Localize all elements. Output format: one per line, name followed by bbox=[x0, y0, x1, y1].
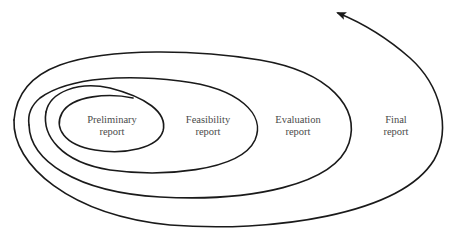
stage-label-evaluation: Evaluation report bbox=[275, 114, 321, 138]
stage-label-line2: report bbox=[186, 126, 230, 138]
stage-label-line1: Final bbox=[383, 114, 408, 126]
stage-label-line1: Feasibility bbox=[186, 114, 230, 126]
stage-label-line2: report bbox=[87, 126, 137, 138]
stage-label-line2: report bbox=[383, 126, 408, 138]
stage-label-line2: report bbox=[275, 126, 321, 138]
stage-label-final: Final report bbox=[383, 114, 408, 138]
stage-label-line1: Evaluation bbox=[275, 114, 321, 126]
stage-label-preliminary: Preliminary report bbox=[87, 114, 137, 138]
stage-label-feasibility: Feasibility report bbox=[186, 114, 230, 138]
stage-label-line1: Preliminary bbox=[87, 114, 137, 126]
